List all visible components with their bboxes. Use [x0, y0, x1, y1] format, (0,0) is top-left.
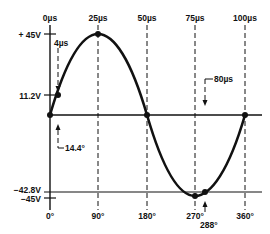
- label-180deg: 180°: [138, 211, 156, 221]
- label-288deg: 288°: [200, 220, 218, 230]
- leader-14deg: [58, 147, 64, 148]
- label-75us: 75µs: [185, 13, 204, 23]
- label-neg-45v: −45V: [21, 194, 41, 204]
- label-0deg: 0°: [46, 211, 55, 221]
- label-50us: 50µs: [137, 13, 156, 23]
- label-11v: 11.2V: [19, 91, 41, 101]
- label-100us: 100µs: [233, 13, 257, 23]
- label-25us: 25µs: [88, 13, 107, 23]
- label-pos-45v: + 45V: [19, 30, 42, 40]
- label-80us: 80µs: [214, 74, 233, 84]
- arrow-14deg: [56, 124, 61, 130]
- label-0us: 0µs: [43, 13, 58, 23]
- label-14deg: 14.4°: [65, 143, 86, 153]
- sine-wave-diagram: 0µs 25µs 50µs 75µs 100µs 0° 90° 180° 270…: [0, 0, 270, 234]
- label-90deg: 90°: [92, 211, 105, 221]
- arrow-80us: [203, 100, 208, 106]
- label-360deg: 360°: [236, 211, 254, 221]
- label-4us: 4µs: [54, 38, 69, 48]
